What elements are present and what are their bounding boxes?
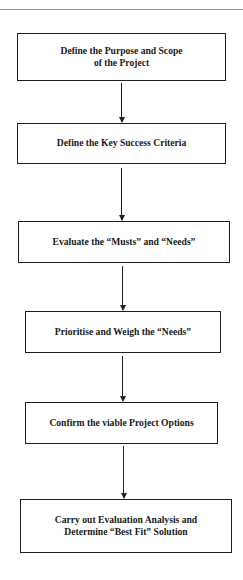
- step-3-box: Evaluate the “Musts” and “Needs”: [18, 221, 230, 263]
- step-6-line-1: Carry out Evaluation Analysis and: [55, 514, 197, 527]
- step-6-line-2: Determine “Best Fit” Solution: [55, 526, 197, 539]
- step-3-label: Evaluate the “Musts” and “Needs”: [53, 236, 196, 249]
- step-4-box: Prioritise and Weigh the “Needs”: [25, 311, 221, 353]
- arrow-5-to-6: [123, 446, 124, 498]
- step-5-label: Confirm the viable Project Options: [49, 417, 193, 430]
- step-4-label: Prioritise and Weigh the “Needs”: [55, 326, 191, 339]
- arrow-3-to-4: [122, 266, 123, 310]
- step-1-line-1: Define the Purpose and Scope: [60, 45, 182, 58]
- top-rule: [0, 9, 243, 10]
- arrow-4-to-5: [122, 356, 123, 401]
- step-6-box: Carry out Evaluation Analysis and Determ…: [20, 499, 232, 553]
- step-1-line-2: of the Project: [60, 57, 182, 70]
- step-5-box: Confirm the viable Project Options: [25, 402, 218, 444]
- step-2-box: Define the Key Success Criteria: [17, 123, 226, 164]
- step-2-label: Define the Key Success Criteria: [57, 137, 186, 150]
- step-1-box: Define the Purpose and Scope of the Proj…: [17, 33, 226, 81]
- arrow-2-to-3: [121, 168, 122, 220]
- arrow-1-to-2: [121, 83, 122, 122]
